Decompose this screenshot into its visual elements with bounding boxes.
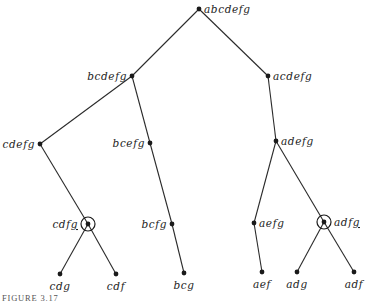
node-dot-icon xyxy=(58,272,63,277)
node-dot-icon xyxy=(260,270,265,275)
node-bcg: bcg xyxy=(173,271,194,291)
node-acdefg: acdefg xyxy=(266,70,313,82)
tree-nodes: abcdefgbcdefgacdefgcdefgbcefgadefgcdfgbc… xyxy=(3,3,365,292)
edge-cdfg-cdg xyxy=(60,224,88,274)
node-dot-icon xyxy=(130,74,135,79)
figure-caption: FIGURE 3.17 xyxy=(2,293,59,303)
node-label: acdefg xyxy=(273,70,312,82)
edge-bcefg-bcfg xyxy=(150,143,172,224)
node-dot-icon xyxy=(197,7,202,12)
node-adefg: adefg xyxy=(274,135,314,147)
node-label: adf xyxy=(345,278,365,290)
node-aefg: aefg xyxy=(252,217,285,229)
node-bcfg: bcfg xyxy=(141,218,174,230)
node-label: bcg xyxy=(173,279,194,291)
node-cdfg: cdfg xyxy=(52,217,95,231)
node-cdg: cdg xyxy=(49,272,70,292)
node-adfg: adfg xyxy=(317,215,360,229)
node-label: aefg xyxy=(259,217,284,229)
node-label: adg xyxy=(286,278,308,290)
node-dot-icon xyxy=(114,272,119,277)
node-label: cdf xyxy=(107,280,127,292)
node-dot-icon xyxy=(38,142,43,147)
node-label: bcfg xyxy=(141,218,167,230)
node-abcdefg: abcdefg xyxy=(197,3,251,15)
node-cdefg: cdefg xyxy=(3,138,43,150)
node-cdf: cdf xyxy=(107,272,127,292)
node-dot-icon xyxy=(274,139,279,144)
edge-cdfg-cdf xyxy=(88,224,116,274)
edge-aefg-aef xyxy=(254,223,262,272)
edge-abcdefg-bcdefg xyxy=(132,9,199,76)
node-bcdefg: bcdefg xyxy=(87,70,134,82)
edge-bcdefg-bcefg xyxy=(132,76,150,143)
edge-adfg-adf xyxy=(324,222,354,272)
edge-adefg-adfg xyxy=(276,141,324,222)
node-dot-icon xyxy=(252,221,257,226)
node-label: adefg xyxy=(281,135,314,147)
node-dot-icon xyxy=(322,220,327,225)
node-label: cdfg xyxy=(52,218,78,230)
node-label: bcdefg xyxy=(87,70,127,82)
node-label: cdefg xyxy=(3,138,35,150)
node-dot-icon xyxy=(295,270,300,275)
edge-bcfg-bcg xyxy=(172,224,184,273)
node-bcefg: bcefg xyxy=(113,137,153,149)
node-label: cdg xyxy=(49,280,70,292)
node-dot-icon xyxy=(182,271,187,276)
node-adg: adg xyxy=(286,270,308,290)
node-adf: adf xyxy=(345,270,365,290)
edge-acdefg-adefg xyxy=(268,76,276,141)
node-dot-icon xyxy=(352,270,357,275)
edge-abcdefg-acdefg xyxy=(199,9,268,76)
node-dot-icon xyxy=(266,74,271,79)
edge-bcdefg-cdefg xyxy=(40,76,132,144)
node-dot-icon xyxy=(170,222,175,227)
edge-adfg-adg xyxy=(297,222,324,272)
edge-adefg-aefg xyxy=(254,141,276,223)
node-aef: aef xyxy=(253,270,273,290)
node-label: bcefg xyxy=(113,137,145,149)
node-label: adfg xyxy=(334,216,360,228)
node-dot-icon xyxy=(148,141,153,146)
node-label: abcdefg xyxy=(204,3,251,15)
edge-cdefg-cdfg xyxy=(40,144,88,224)
node-dot-icon xyxy=(86,222,91,227)
node-label: aef xyxy=(253,278,273,290)
tree-diagram: abcdefgbcdefgacdefgcdefgbcefgadefgcdfgbc… xyxy=(0,0,366,303)
